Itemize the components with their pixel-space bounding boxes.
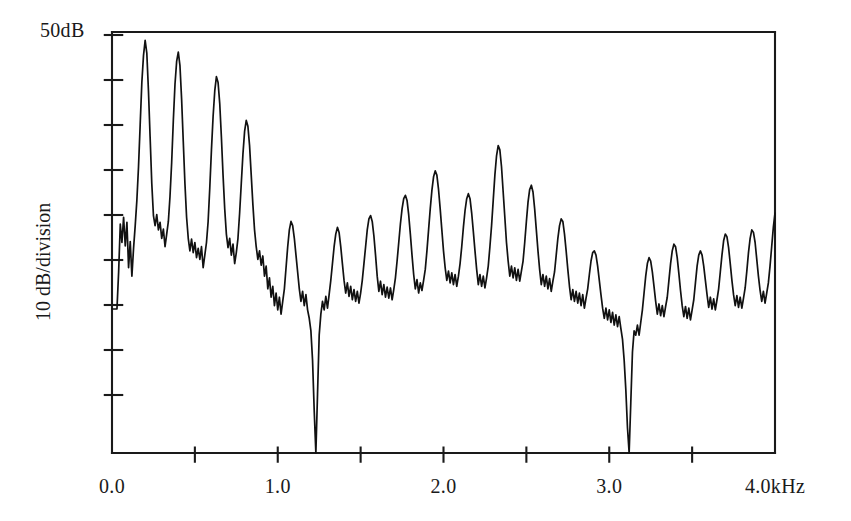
y-axis-top-label: 50dB: [40, 19, 85, 42]
x-tick-label-4: 4.0kHz: [745, 475, 805, 498]
spectrum-plot-canvas: [0, 0, 851, 521]
x-tick-label-2: 2.0: [431, 475, 457, 498]
x-tick-label-3: 3.0: [596, 475, 622, 498]
spectrum-trace: [112, 40, 775, 453]
x-tick-label-1: 1.0: [265, 475, 291, 498]
y-axis-title: 10 dB/division: [32, 202, 55, 320]
x-tick-label-0: 0.0: [99, 475, 125, 498]
spectrum-figure: 50dB 10 dB/division 0.0 1.0 2.0 3.0 4.0k…: [0, 0, 851, 521]
